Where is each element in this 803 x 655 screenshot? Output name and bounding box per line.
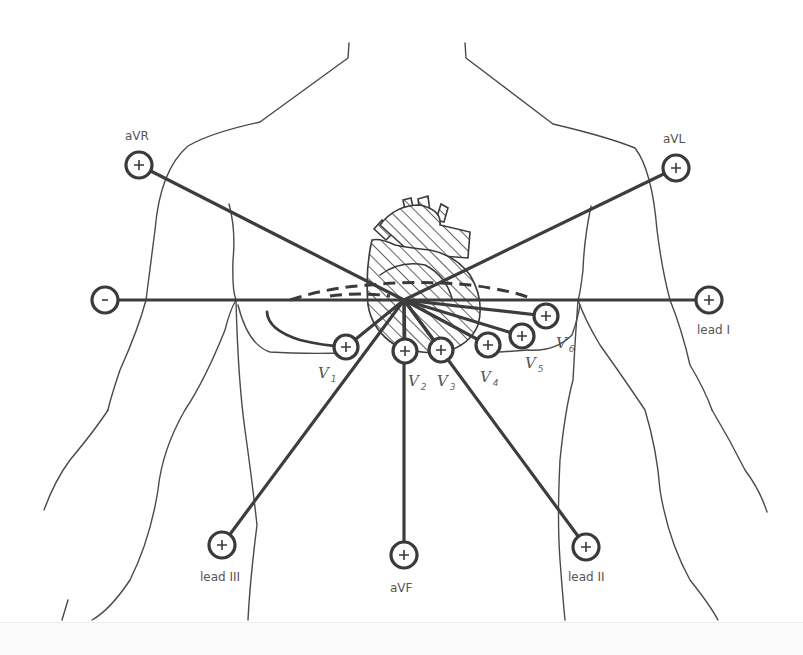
label-lead-II: lead II: [568, 570, 605, 584]
label-lead-III: lead III: [200, 570, 240, 584]
electrode-V3[interactable]: [429, 338, 453, 362]
electrode-V6[interactable]: [534, 304, 558, 328]
electrode-V1[interactable]: [334, 335, 358, 359]
electrode-aVL[interactable]: [663, 155, 689, 181]
label-V3: V3: [437, 372, 456, 392]
electrode-V4[interactable]: [476, 333, 500, 357]
electrode-V2[interactable]: [393, 339, 417, 363]
electrode-V5[interactable]: [510, 324, 534, 348]
electrode-lead-I-negative[interactable]: [92, 287, 118, 313]
electrode-lead-III[interactable]: [209, 532, 235, 558]
label-V5: V5: [525, 354, 544, 374]
label-aVF: aVF: [390, 581, 413, 595]
label-lead-I: lead I: [697, 323, 730, 337]
electrode-aVF[interactable]: [391, 542, 417, 568]
label-V6: V6: [556, 334, 575, 354]
label-V1: V1: [318, 364, 337, 384]
label-aVL: aVL: [663, 132, 686, 146]
label-V4: V4: [480, 368, 499, 388]
electrode-aVR[interactable]: [126, 152, 152, 178]
left-curve: [267, 312, 340, 346]
electrode-lead-I[interactable]: [696, 287, 722, 313]
label-aVR: aVR: [125, 129, 149, 143]
electrode-lead-II[interactable]: [573, 534, 599, 560]
label-V2: V2: [408, 372, 427, 392]
